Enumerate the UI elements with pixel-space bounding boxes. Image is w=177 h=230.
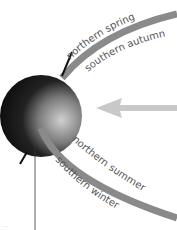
earth-globe xyxy=(0,75,82,157)
earth-axis-bottom xyxy=(20,152,27,164)
sunlight-arrow-icon xyxy=(96,98,177,118)
seasons-diagram: northern spring southern autumn northern… xyxy=(0,0,177,230)
footnote-label: · · · xyxy=(2,224,8,229)
